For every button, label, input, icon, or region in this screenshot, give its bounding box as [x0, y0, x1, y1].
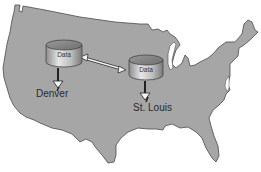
db-label-stlouis: Data [139, 66, 153, 73]
city-label-denver: Denver [36, 88, 68, 99]
city-label-stlouis: St. Louis [133, 102, 172, 113]
us-replication-diagram: Data Data Denver St. Louis [0, 0, 261, 172]
database-cylinder-icon-denver: Data [46, 40, 82, 67]
us-silhouette [3, 5, 258, 163]
database-cylinder-icon-stlouis: Data [129, 55, 163, 80]
us-map: Data Data [0, 0, 261, 172]
db-label-denver: Data [57, 51, 71, 58]
